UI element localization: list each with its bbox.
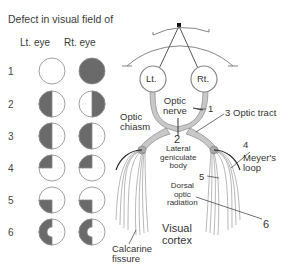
marker-4: 4 xyxy=(243,140,248,150)
field-left-normal xyxy=(39,58,65,84)
field-row-4 xyxy=(39,155,105,181)
meyers-loop-label: Meyer's loop xyxy=(243,153,276,173)
visual-cortex-label: Visual cortex xyxy=(162,222,192,246)
left-eye-label: Lt. xyxy=(146,74,157,84)
visual-field-arc xyxy=(122,28,238,66)
optic-tract-label: Optic tract xyxy=(233,108,276,118)
field-row-1 xyxy=(39,58,105,84)
field-row-3 xyxy=(39,123,105,149)
right-optic-radiation xyxy=(206,150,240,235)
field-row-6 xyxy=(39,219,105,245)
optic-nerve-label: Optic nerve xyxy=(163,96,187,116)
right-eye-label: Rt. xyxy=(197,74,209,84)
left-optic-radiation xyxy=(116,150,148,235)
marker-1: 1 xyxy=(208,104,213,114)
optic-chiasm-label: Optic chiasm xyxy=(120,112,150,132)
field-left-temporal-defect xyxy=(39,91,52,117)
visual-field-diagram xyxy=(0,0,289,270)
calcarine-fissure-label: Calcarine fissure xyxy=(112,244,152,264)
field-row-2 xyxy=(39,91,105,117)
field-right-blind xyxy=(79,58,105,84)
dorsal-optic-radiation-label: Dorsal optic radiation xyxy=(167,182,198,208)
field-right-temporal-defect xyxy=(92,91,105,117)
field-row-5 xyxy=(39,187,105,213)
lateral-geniculate-body-label: Lateral geniculate body xyxy=(160,145,196,171)
marker-6: 6 xyxy=(263,218,269,230)
marker-3: 3 xyxy=(225,108,230,118)
marker-5: 5 xyxy=(199,172,204,182)
